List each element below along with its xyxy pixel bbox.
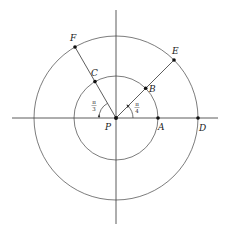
label-C: C (91, 68, 98, 78)
angle-label-pi-over-3: π 3 (92, 99, 97, 112)
point-F (73, 45, 77, 49)
label-E: E (171, 46, 179, 56)
frac-denominator: 3 (92, 106, 96, 112)
label-D: D (198, 123, 206, 133)
diagram-canvas: π 4 π 3 P A B C D E F (0, 0, 225, 230)
angle-arc-pi-over-3 (99, 103, 108, 118)
arrow-head-pi-over-3 (98, 114, 100, 117)
point-B (144, 87, 148, 91)
label-F: F (69, 33, 77, 43)
label-A: A (157, 122, 165, 132)
label-P: P (104, 122, 112, 132)
point-E (172, 58, 176, 62)
frac-numerator: π (135, 101, 139, 107)
label-B: B (148, 84, 156, 94)
point-C (93, 80, 97, 84)
point-A (156, 116, 160, 120)
angle-label-pi-over-4: π 4 (135, 101, 140, 114)
point-D (196, 116, 200, 120)
unit-circle-diagram: π 4 π 3 P A B C D E F (0, 0, 225, 230)
frac-denominator: 4 (135, 108, 139, 114)
point-P (114, 116, 118, 120)
angle-arc-pi-over-4 (128, 106, 133, 118)
frac-numerator: π (92, 99, 96, 105)
